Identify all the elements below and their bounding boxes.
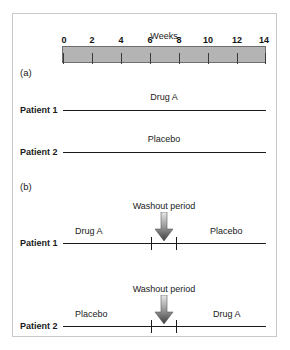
week-label-14: 14 bbox=[259, 35, 269, 45]
panel-b-patient-2-washout-start-tick bbox=[151, 320, 152, 333]
panel-b-patient-2-washout-arrow bbox=[154, 295, 174, 325]
week-tick-0 bbox=[63, 53, 64, 64]
panel-b-letter: (b) bbox=[20, 181, 32, 192]
panel-a-patient-2-timeline bbox=[63, 152, 266, 153]
panel-b-patient-2-treatment-2-label: Drug A bbox=[213, 309, 241, 319]
panel-b-patient-2-washout-end-tick bbox=[176, 320, 177, 333]
panel-b-patient-1-washout-end-tick bbox=[176, 237, 177, 250]
weeks-axis-title: Weeks bbox=[150, 31, 177, 41]
week-label-12: 12 bbox=[232, 35, 242, 45]
panel-b-patient-1-treatment-2-label: Placebo bbox=[210, 226, 243, 236]
panel-b-patient-1-washout-label: Washout period bbox=[133, 201, 196, 211]
panel-a-patient-2-label: Patient 2 bbox=[20, 147, 58, 157]
week-label-4: 4 bbox=[118, 35, 123, 45]
week-label-10: 10 bbox=[203, 35, 213, 45]
panel-a-patient-2-treatment-label: Placebo bbox=[148, 134, 181, 144]
panel-b-patient-1-washout-arrow bbox=[154, 212, 174, 242]
week-tick-10 bbox=[208, 53, 209, 64]
week-tick-14 bbox=[265, 53, 266, 64]
panel-a-patient-1-label: Patient 1 bbox=[20, 105, 58, 115]
panel-b-patient-2-treatment-1-label: Placebo bbox=[75, 309, 108, 319]
week-label-8: 8 bbox=[176, 35, 181, 45]
panel-b-patient-2-label: Patient 2 bbox=[20, 321, 58, 331]
week-tick-6 bbox=[150, 53, 151, 64]
week-tick-12 bbox=[237, 53, 238, 64]
figure-panel-container: Weeks (a) 0 2 4 6 8 10 12 14 Patient 1 D… bbox=[12, 13, 277, 337]
panel-a-patient-1-treatment-label: Drug A bbox=[150, 92, 178, 102]
panel-b-patient-1-label: Patient 1 bbox=[20, 238, 58, 248]
week-label-6: 6 bbox=[147, 35, 152, 45]
week-tick-2 bbox=[92, 53, 93, 64]
weeks-scale-bar: 0 2 4 6 8 10 12 14 bbox=[62, 46, 266, 63]
panel-b-patient-2-washout-label: Washout period bbox=[133, 284, 196, 294]
panel-a-patient-1-timeline bbox=[63, 110, 266, 111]
panel-b-patient-1-washout-start-tick bbox=[151, 237, 152, 250]
week-tick-4 bbox=[121, 53, 122, 64]
week-label-2: 2 bbox=[89, 35, 94, 45]
panel-a-letter: (a) bbox=[20, 67, 32, 78]
week-label-0: 0 bbox=[61, 35, 66, 45]
panel-b-patient-1-treatment-1-label: Drug A bbox=[75, 226, 103, 236]
week-tick-8 bbox=[179, 53, 180, 64]
panel-b-patient-2-timeline bbox=[63, 326, 266, 327]
panel-b-patient-1-timeline bbox=[63, 243, 266, 244]
